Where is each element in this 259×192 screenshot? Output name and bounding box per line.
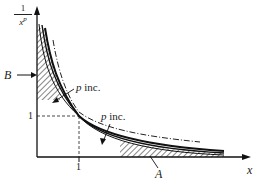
x-axis-arrowhead: [242, 154, 251, 160]
curve-mid-p-2: [42, 25, 224, 153]
y-axis-arrowhead: [34, 6, 40, 15]
annotation-p-inc-lower: p inc.: [101, 111, 125, 122]
y-tick-label-1: 1: [28, 111, 33, 121]
y-axis-label: 1 xp: [12, 4, 34, 27]
y-axis-label-denominator: xp: [12, 16, 34, 27]
curve-large-p: [39, 24, 224, 155]
y-axis-label-numerator: 1: [12, 4, 34, 13]
label-b: B: [4, 69, 11, 81]
b-arrowhead: [31, 72, 37, 78]
p-inc-lower-arrowhead: [100, 138, 106, 145]
figure-canvas: [0, 0, 259, 192]
x-tick-label-1: 1: [76, 162, 81, 172]
x-axis-label: x: [247, 164, 252, 176]
annotation-p-inc-upper: p inc.: [76, 82, 100, 93]
label-a: A: [155, 168, 162, 180]
